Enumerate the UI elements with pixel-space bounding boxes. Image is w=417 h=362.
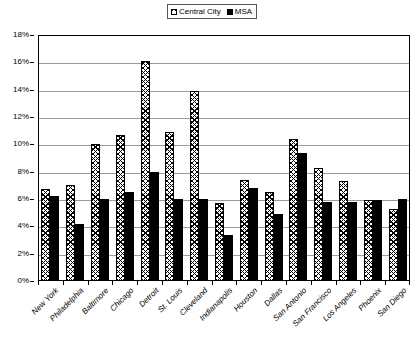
bar-msa (100, 199, 109, 281)
bar-central-city (190, 91, 199, 281)
x-axis-labels: New YorkPhiladelphiaBaltimoreChicagoDetr… (38, 286, 410, 356)
x-tick-mark (261, 281, 262, 285)
bar-group (336, 35, 361, 281)
bar-central-city (240, 180, 249, 281)
y-axis-tick-label: 18% (13, 31, 29, 39)
bar-group (38, 35, 63, 281)
x-tick-mark (38, 281, 39, 285)
bar-group (187, 35, 212, 281)
bar-msa (298, 153, 307, 281)
y-axis-tick-label: 2% (17, 250, 29, 258)
x-tick-mark (336, 281, 337, 285)
x-tick-mark (162, 281, 163, 285)
bar-central-city (314, 168, 323, 281)
y-axis-tick-mark (30, 35, 34, 36)
y-axis-tick-label: 6% (17, 195, 29, 203)
y-axis-tick-label: 8% (17, 168, 29, 176)
bar-central-city (389, 209, 398, 281)
bar-msa (150, 172, 159, 281)
bar-msa (274, 214, 283, 281)
x-tick-mark (286, 281, 287, 285)
bar-msa (348, 202, 357, 281)
y-axis-tick-label: 14% (13, 86, 29, 94)
bar-group (236, 35, 261, 281)
bar-group (63, 35, 88, 281)
y-axis-tick-mark (30, 254, 34, 255)
bar-central-city (141, 61, 150, 281)
bar-group (261, 35, 286, 281)
x-axis-label: Chicago (108, 286, 135, 313)
bar-central-city (289, 139, 298, 281)
y-axis-tick-mark (30, 117, 34, 118)
y-axis-tick-label: 4% (17, 222, 29, 230)
y-axis-tick-mark (30, 226, 34, 227)
x-tick-mark (385, 281, 386, 285)
bar-group (286, 35, 311, 281)
bar-group (212, 35, 237, 281)
x-tick-mark (88, 281, 89, 285)
bar-group (112, 35, 137, 281)
bar-central-city (364, 200, 373, 281)
bar-group (88, 35, 113, 281)
x-tick-mark (63, 281, 64, 285)
bar-msa (174, 199, 183, 281)
solid-black-swatch-icon (227, 9, 233, 15)
bar-group (360, 35, 385, 281)
x-axis-label: Houston (232, 286, 259, 313)
bar-msa (224, 235, 233, 281)
bar-group (137, 35, 162, 281)
bar-group (385, 35, 410, 281)
bar-group (311, 35, 336, 281)
bar-msa (323, 202, 332, 281)
legend-entry-msa: MSA (227, 7, 252, 16)
bar-msa (373, 200, 382, 281)
bar-msa (50, 196, 59, 281)
x-tick-mark (236, 281, 237, 285)
y-axis-tick-label: 0% (17, 277, 29, 285)
bar-series-container (38, 35, 410, 281)
y-axis-tick-mark (30, 62, 34, 63)
hatch-swatch-icon (171, 9, 177, 15)
y-axis-tick-label: 16% (13, 58, 29, 66)
y-axis-tick-mark (30, 144, 34, 145)
bar-central-city (41, 189, 50, 281)
bar-msa (249, 188, 258, 281)
bar-central-city (165, 132, 174, 281)
x-tick-mark (311, 281, 312, 285)
legend-entry-central-city: Central City (171, 7, 221, 16)
y-axis: 0%2%4%6%8%10%12%14%16%18% (0, 35, 34, 281)
y-axis-tick-label: 10% (13, 140, 29, 148)
bar-msa (125, 192, 134, 281)
y-axis-tick-mark (30, 281, 34, 282)
x-tick-mark (360, 281, 361, 285)
x-tick-mark (187, 281, 188, 285)
bar-msa (398, 199, 407, 281)
x-tick-mark (137, 281, 138, 285)
x-axis-label: Dallas (262, 286, 284, 308)
legend-label-msa: MSA (235, 7, 252, 16)
y-axis-tick-label: 12% (13, 113, 29, 121)
x-tick-mark (112, 281, 113, 285)
y-axis-tick-mark (30, 199, 34, 200)
bar-central-city (66, 185, 75, 281)
y-axis-tick-mark (30, 90, 34, 91)
bar-group (162, 35, 187, 281)
x-tick-mark (212, 281, 213, 285)
bar-central-city (215, 203, 224, 281)
chart-legend: Central City MSA (167, 4, 257, 19)
bar-central-city (265, 192, 274, 281)
y-axis-tick-mark (30, 172, 34, 173)
bar-msa (199, 199, 208, 281)
bar-central-city (116, 135, 125, 281)
bar-central-city (91, 144, 100, 281)
bar-msa (75, 224, 84, 281)
bar-central-city (339, 181, 348, 281)
legend-label-central-city: Central City (179, 7, 221, 16)
